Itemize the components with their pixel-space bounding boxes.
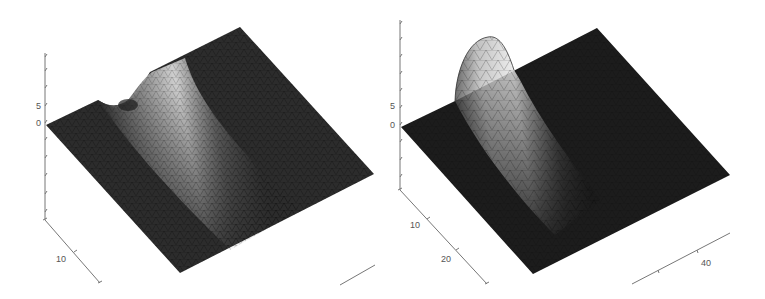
right-y-tick-10: 10 [410, 220, 420, 230]
figure: 5 0 10 5 0 10 20 40 [0, 0, 765, 299]
left-z-tick-0: 0 [36, 118, 41, 128]
right-y-tick-20: 20 [441, 254, 451, 264]
right-surface-plot: 5 0 10 20 40 [390, 20, 730, 284]
right-z-tick-5: 5 [390, 101, 395, 111]
left-surface-plot: 5 0 10 [36, 27, 375, 285]
left-z-tick-5: 5 [36, 101, 41, 111]
right-x-tick-40: 40 [701, 258, 711, 268]
right-z-tick-0: 0 [390, 120, 395, 130]
left-y-tick-10: 10 [56, 254, 66, 264]
